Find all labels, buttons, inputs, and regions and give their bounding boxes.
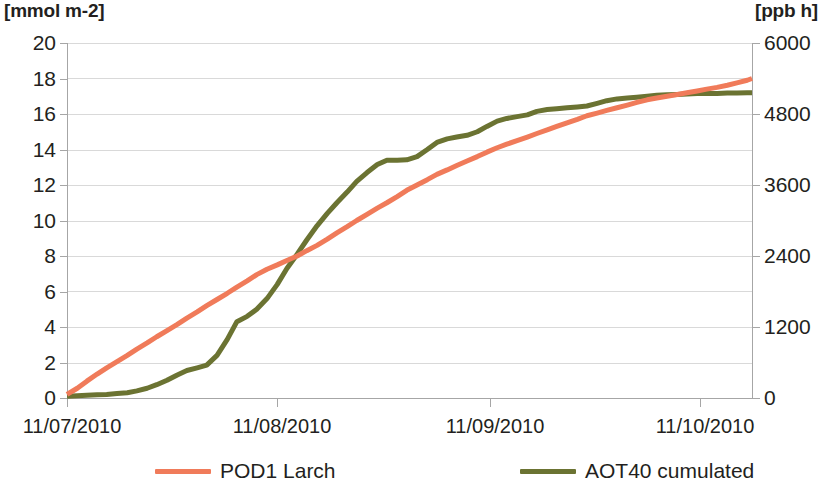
x-axis-tick-label: 11/07/2010 — [23, 415, 122, 437]
left-axis-tick-label: 14 — [4, 139, 56, 160]
x-axis-tick-label: 11/09/2010 — [446, 415, 545, 437]
x-axis-tick-label: 11/10/2010 — [656, 415, 755, 437]
right-axis-tick — [753, 398, 760, 399]
left-axis-tick — [60, 221, 67, 222]
left-axis-tick-label: 12 — [4, 174, 56, 195]
left-axis-tick — [60, 256, 67, 257]
right-axis-tick — [753, 43, 760, 44]
right-axis-tick — [753, 256, 760, 257]
left-axis-tick — [60, 327, 67, 328]
left-axis-tick-label: 10 — [4, 210, 56, 231]
series-line-aot40 — [67, 93, 752, 397]
left-axis-tick — [60, 150, 67, 151]
right-axis-tick-label: 0 — [764, 387, 823, 408]
left-axis-tick-label: 8 — [4, 245, 56, 266]
right-axis-tick — [753, 114, 760, 115]
left-axis-tick-label: 2 — [4, 352, 56, 373]
right-axis-tick-labels: 600048003600240012000 — [764, 0, 823, 491]
right-axis-tick-label: 6000 — [764, 32, 823, 53]
series-line-pod1 — [67, 79, 752, 395]
left-axis-tick — [60, 114, 67, 115]
left-axis-tick-label: 20 — [4, 32, 56, 53]
chart-legend: POD1 Larch AOT40 cumulated — [0, 455, 823, 491]
legend-label-aot40: AOT40 cumulated — [585, 460, 754, 482]
right-axis-tick-label: 1200 — [764, 316, 823, 337]
right-axis-tick — [753, 185, 760, 186]
x-axis-tick-label: 11/08/2010 — [233, 415, 332, 437]
legend-label-pod1: POD1 Larch — [220, 460, 336, 482]
legend-item-aot40[interactable]: AOT40 cumulated — [520, 455, 754, 487]
left-axis-tick-label: 6 — [4, 281, 56, 302]
right-axis-tick-label: 3600 — [764, 174, 823, 195]
left-axis-tick — [60, 292, 67, 293]
left-axis-tick — [60, 79, 67, 80]
left-axis-tick-label: 16 — [4, 103, 56, 124]
right-axis-tick — [753, 327, 760, 328]
legend-swatch-aot40 — [520, 469, 576, 474]
left-axis-tick — [60, 363, 67, 364]
x-axis-tick — [490, 399, 491, 407]
series-lines — [67, 43, 753, 399]
right-axis-tick-label: 2400 — [764, 245, 823, 266]
legend-item-pod1[interactable]: POD1 Larch — [155, 455, 336, 487]
left-axis-tick — [60, 43, 67, 44]
left-axis-tick-label: 0 — [4, 387, 56, 408]
left-axis-tick-label: 4 — [4, 316, 56, 337]
legend-swatch-pod1 — [155, 469, 211, 474]
right-axis-tick-label: 4800 — [764, 103, 823, 124]
x-axis-tick — [277, 399, 278, 407]
x-axis-tick — [67, 399, 68, 407]
chart-container: [mmol m-2] [ppb h] 20181614121086420 600… — [0, 0, 823, 491]
x-axis-tick — [700, 399, 701, 407]
left-axis-tick — [60, 185, 67, 186]
left-axis-tick-label: 18 — [4, 68, 56, 89]
left-axis-tick — [60, 398, 67, 399]
